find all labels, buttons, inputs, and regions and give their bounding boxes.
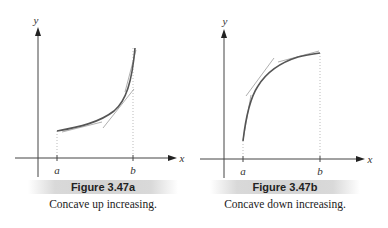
y-axis-label: y xyxy=(222,15,228,27)
x-axis-label: x xyxy=(367,153,373,165)
figure-3-47b: y x a b Figure 3.47b Concave down increa… xyxy=(194,0,388,228)
tick-label-a: a xyxy=(54,164,60,176)
figure-title-bar: Figure 3.47b xyxy=(210,180,360,194)
tick-label-b: b xyxy=(317,165,323,177)
figure-title: Figure 3.47a xyxy=(71,181,135,193)
figure-3-47a: y x a b Figure 3.47a Concave up increasi… xyxy=(0,0,194,228)
tick-label-a: a xyxy=(240,165,246,177)
tick-label-b: b xyxy=(130,164,136,176)
figure-caption: Concave up increasing. xyxy=(28,198,178,210)
figure-title: Figure 3.47b xyxy=(253,181,318,193)
y-axis-label: y xyxy=(33,14,39,26)
figure-caption: Concave down increasing. xyxy=(210,198,360,210)
x-axis-label: x xyxy=(179,152,185,164)
figure-title-bar: Figure 3.47a xyxy=(28,180,178,194)
